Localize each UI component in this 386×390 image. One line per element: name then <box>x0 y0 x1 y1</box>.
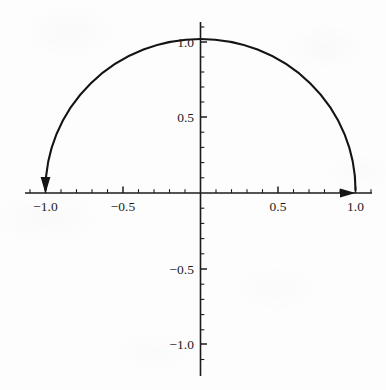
x-tick-label: −0.5 <box>111 199 136 214</box>
x-axis-tick-labels: −1.0 −0.5 0.5 1.0 <box>33 199 364 214</box>
start-arrowhead <box>340 188 356 197</box>
x-tick-label: 1.0 <box>347 199 364 214</box>
end-arrowhead <box>41 177 51 194</box>
y-tick-label: 0.5 <box>177 110 194 125</box>
y-tick-label: −0.5 <box>170 262 195 277</box>
semicircle-plot: −1.0 −0.5 0.5 1.0 1.0 0.5 −0.5 −1.0 <box>0 0 386 390</box>
axes-group <box>25 22 372 376</box>
arrowheads-group <box>41 177 356 198</box>
y-tick-label: −1.0 <box>170 337 195 352</box>
x-tick-label: −1.0 <box>33 199 58 214</box>
plot-figure: −1.0 −0.5 0.5 1.0 1.0 0.5 −0.5 −1.0 <box>0 0 386 390</box>
y-tick-label: 1.0 <box>177 35 194 50</box>
x-tick-label: 0.5 <box>270 199 287 214</box>
